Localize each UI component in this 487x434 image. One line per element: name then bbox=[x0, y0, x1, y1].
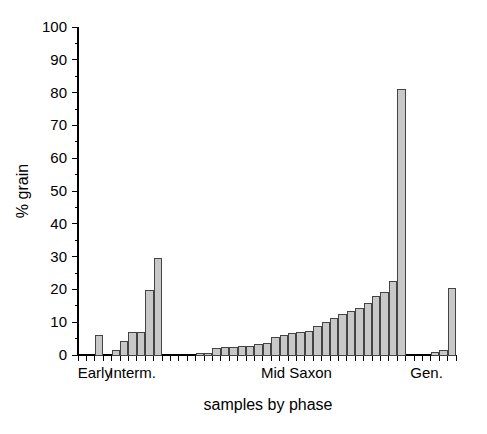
y-tick-label: 80 bbox=[50, 84, 67, 101]
y-tick-label: 30 bbox=[50, 248, 67, 265]
bar bbox=[213, 348, 220, 355]
grain-percentage-bar-chart: 0102030405060708090100 EarlyInterm.Mid S… bbox=[0, 0, 487, 434]
x-category-label: Early bbox=[78, 364, 113, 381]
y-tick-label: 50 bbox=[50, 182, 67, 199]
y-tick-label: 10 bbox=[50, 313, 67, 330]
x-category-label: Gen. bbox=[410, 364, 443, 381]
bar bbox=[289, 333, 296, 355]
bar bbox=[339, 314, 346, 355]
bar bbox=[154, 259, 161, 355]
bar bbox=[205, 353, 212, 355]
bar bbox=[389, 281, 396, 355]
bar bbox=[121, 341, 128, 355]
bar bbox=[305, 331, 312, 355]
bar bbox=[373, 297, 380, 355]
bar bbox=[440, 350, 447, 355]
bar bbox=[356, 308, 363, 355]
bar bbox=[331, 319, 338, 355]
y-tick-label: 70 bbox=[50, 116, 67, 133]
bar bbox=[431, 353, 438, 355]
chart-canvas: 0102030405060708090100 EarlyInterm.Mid S… bbox=[0, 0, 487, 434]
bar bbox=[196, 354, 203, 355]
x-axis-title: samples by phase bbox=[204, 396, 333, 413]
bar bbox=[280, 335, 287, 355]
bar bbox=[398, 89, 405, 355]
bar bbox=[238, 346, 245, 355]
bar bbox=[314, 327, 321, 355]
bar bbox=[272, 338, 279, 355]
bar bbox=[230, 347, 237, 355]
bar bbox=[255, 345, 262, 355]
x-category-label: Mid Saxon bbox=[261, 364, 332, 381]
bar bbox=[112, 350, 119, 355]
x-category-label: Interm. bbox=[109, 364, 156, 381]
y-tick-label: 100 bbox=[42, 18, 67, 35]
bar bbox=[129, 332, 136, 355]
bar bbox=[347, 311, 354, 355]
y-tick-label: 40 bbox=[50, 215, 67, 232]
y-tick-label: 20 bbox=[50, 280, 67, 297]
y-axis-title: % grain bbox=[14, 164, 31, 218]
bar bbox=[448, 288, 455, 355]
y-tick-label: 60 bbox=[50, 149, 67, 166]
bar bbox=[137, 332, 144, 355]
bar bbox=[95, 336, 102, 355]
bar bbox=[381, 292, 388, 355]
bar bbox=[221, 348, 228, 355]
bar bbox=[263, 344, 270, 355]
bar bbox=[322, 323, 329, 355]
bar bbox=[364, 303, 371, 355]
bar bbox=[297, 332, 304, 355]
y-tick-label: 90 bbox=[50, 51, 67, 68]
y-tick-label: 0 bbox=[59, 346, 67, 363]
bar bbox=[247, 346, 254, 355]
bar bbox=[146, 291, 153, 355]
